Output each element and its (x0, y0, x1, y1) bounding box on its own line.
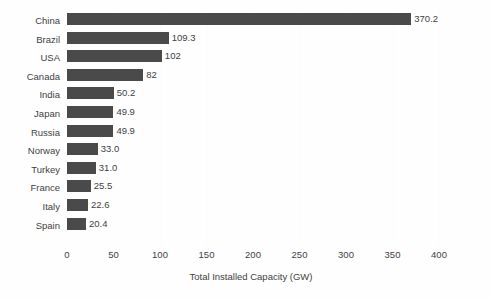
x-tick-label: 50 (108, 248, 119, 261)
category-label: India (39, 88, 60, 101)
x-tick-label: 250 (292, 248, 308, 261)
category-label: Japan (34, 107, 60, 120)
bar[interactable] (67, 199, 89, 211)
bar-value-label: 102 (165, 49, 181, 62)
category-label: Norway (28, 144, 60, 157)
bar[interactable] (67, 125, 114, 137)
category-label: Turkey (31, 163, 60, 176)
bar[interactable] (67, 50, 163, 62)
category-label: Italy (43, 200, 60, 213)
category-label: Spain (36, 219, 60, 232)
x-tick-label: 400 (431, 248, 447, 261)
bar-value-label: 370.2 (414, 12, 438, 25)
bar-value-label: 49.9 (116, 124, 135, 137)
bar-chart: ChinaBrazilUSACanadaIndiaJapanRussiaNorw… (0, 0, 492, 298)
bar-value-label: 20.4 (89, 217, 108, 230)
gridline (439, 8, 440, 246)
category-label: Brazil (36, 33, 60, 46)
bar-row[interactable]: 109.3 (67, 29, 439, 48)
bar-row[interactable]: 49.9 (67, 103, 439, 122)
bar-value-label: 33.0 (101, 142, 120, 155)
x-tick-label: 100 (152, 248, 168, 261)
x-tick-label: 0 (64, 248, 69, 261)
bar[interactable] (67, 218, 87, 230)
bar-row[interactable]: 102 (67, 47, 439, 66)
bar-row[interactable]: 370.2 (67, 10, 439, 29)
x-axis-title-text: Total Installed Capacity (GW) (189, 270, 312, 283)
bar-value-label: 50.2 (117, 86, 136, 99)
bar[interactable] (67, 106, 114, 118)
category-label: China (35, 14, 60, 27)
x-axis: 050100150200250300350400 (67, 248, 439, 264)
x-tick-label: 350 (385, 248, 401, 261)
bar[interactable] (67, 180, 92, 192)
bar-row[interactable]: 49.9 (67, 122, 439, 141)
bar-value-label: 49.9 (116, 105, 135, 118)
bar[interactable] (67, 13, 412, 25)
bar-value-label: 109.3 (172, 31, 196, 44)
bar-row[interactable]: 31.0 (67, 159, 439, 178)
bar[interactable] (67, 87, 115, 99)
bar-row[interactable]: 50.2 (67, 84, 439, 103)
bar-value-label: 31.0 (99, 161, 118, 174)
category-label: France (30, 181, 60, 194)
bar-value-label: 25.5 (94, 179, 113, 192)
bar-row[interactable]: 33.0 (67, 140, 439, 159)
bar[interactable] (67, 143, 99, 155)
bar-row[interactable]: 20.4 (67, 215, 439, 234)
x-axis-title: Total Installed Capacity (GW) (0, 270, 492, 283)
bar-row[interactable]: 82 (67, 66, 439, 85)
category-axis: ChinaBrazilUSACanadaIndiaJapanRussiaNorw… (0, 10, 67, 243)
x-tick-label: 200 (245, 248, 261, 261)
bar-value-label: 82 (146, 68, 157, 81)
bar-value-label: 22.6 (91, 198, 110, 211)
x-tick-label: 300 (338, 248, 354, 261)
category-label: Canada (27, 70, 60, 83)
category-label: USA (40, 51, 60, 64)
bar[interactable] (67, 162, 97, 174)
x-tick-label: 150 (199, 248, 215, 261)
bar[interactable] (67, 32, 170, 44)
bar[interactable] (67, 69, 144, 81)
bar-row[interactable]: 25.5 (67, 177, 439, 196)
category-label: Russia (31, 126, 60, 139)
plot-area: 370.2109.31028250.249.949.933.031.025.52… (67, 10, 439, 243)
bar-row[interactable]: 22.6 (67, 196, 439, 215)
